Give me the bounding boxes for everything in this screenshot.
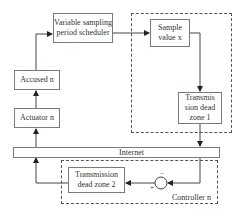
dead-zone-1-label: Transmis sion dead zone 1 (182, 93, 218, 123)
sum-minus-sign: − (160, 170, 164, 178)
sum-plus-sign: + (150, 184, 154, 192)
scheduler-label: Variable sampling period scheduler (54, 18, 112, 38)
actuator-label: Actuator n (20, 113, 54, 123)
scheduler-box: Variable sampling period scheduler (53, 13, 113, 43)
dead-zone-2-box: Transmission dead zone 2 (68, 167, 125, 193)
sample-box: Sample value x (150, 19, 190, 47)
internet-bar: Internet (13, 147, 220, 158)
actuator-box: Actuator n (14, 108, 60, 128)
accused-box: Accused n (14, 70, 60, 90)
dead-zone-1-box: Transmis sion dead zone 1 (178, 92, 222, 124)
summing-junction (155, 177, 167, 189)
controller-label: Controller n (172, 193, 211, 202)
dead-zone-2-label: Transmission dead zone 2 (72, 170, 121, 190)
sample-label: Sample value x (155, 23, 185, 43)
internet-label: Internet (119, 148, 144, 158)
accused-label: Accused n (20, 75, 54, 85)
